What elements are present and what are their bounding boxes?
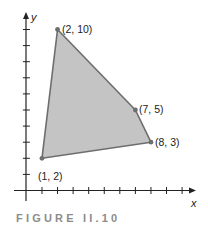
y-axis-arrow-icon xyxy=(23,12,29,19)
vertex-point xyxy=(133,108,138,113)
x-axis-label: x xyxy=(190,197,197,209)
vertex-label-1-2: (1, 2) xyxy=(38,170,63,182)
vertex-label-2-10: (2, 10) xyxy=(62,23,92,35)
chart-canvas: (1, 2) (2, 10) (7, 5) (8, 3) x y xyxy=(0,0,208,229)
feasible-region-polygon xyxy=(42,30,151,159)
vertex-label-7-5: (7, 5) xyxy=(139,103,164,115)
vertex-point xyxy=(40,156,45,161)
vertex-point xyxy=(55,27,60,32)
figure-caption: FIGURE II.10 xyxy=(16,212,120,224)
vertex-label-8-3: (8, 3) xyxy=(155,136,180,148)
x-axis-arrow-icon xyxy=(189,188,196,194)
vertex-point xyxy=(149,140,154,145)
y-axis-label: y xyxy=(30,11,38,23)
